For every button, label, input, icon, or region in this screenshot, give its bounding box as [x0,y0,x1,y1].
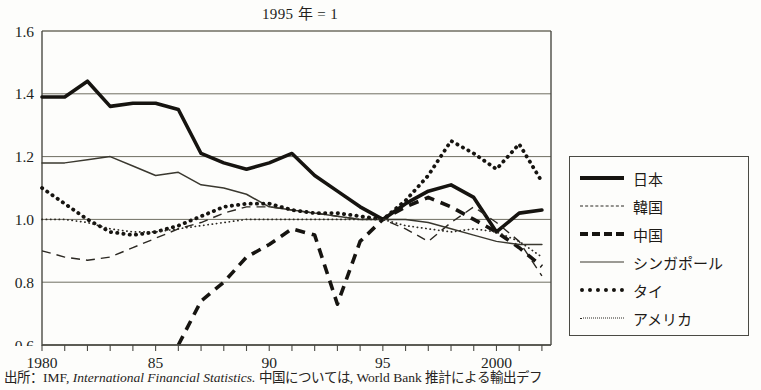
legend-swatch-korea-line-icon [580,199,624,213]
legend-swatch-thailand-line-icon [580,283,624,297]
legend-label-korea: 韓国 [633,196,663,217]
legend-label-singapore: シンガポール [633,252,723,273]
xtick-label: 2000 [481,354,512,371]
legend-item-china: 中国 [580,220,748,248]
ytick-label: 1.2 [15,148,34,165]
chart-legend: 日本 韓国 中国 シンガポール タイ アメリカ [569,156,749,336]
series-group [42,81,542,345]
chart-page: 1995 年 = 1 0.60.81.01.21.41.619808590952… [0,0,761,390]
legend-swatch-singapore-line-icon [580,255,624,269]
legend-item-japan: 日本 [580,164,748,192]
ytick-label: 1.0 [15,211,35,228]
legend-swatch-japan-line-icon [580,171,624,185]
legend-swatch-china-line-icon [580,227,624,241]
legend-label-china: 中国 [633,224,663,245]
legend-item-singapore: シンガポール [580,248,748,276]
ytick-label: 1.6 [15,23,35,40]
source-caption: 出所：IMF, International Financial Statisti… [4,370,761,386]
legend-swatch-usa-line-icon [580,311,624,325]
xtick-label: 95 [375,354,391,371]
legend-item-thailand: タイ [580,276,748,304]
legend-label-japan: 日本 [633,168,663,189]
ytick-label: 1.4 [15,85,35,102]
legend-label-thailand: タイ [633,280,663,301]
caption-italic-title: International Financial Statistics. [73,370,256,385]
caption-prefix: 出所：IMF, [4,370,73,385]
xtick-label: 1980 [27,354,58,371]
legend-item-korea: 韓国 [580,192,748,220]
legend-item-usa: アメリカ [580,304,748,332]
xtick-label: 90 [261,354,277,371]
series-line-韓国 [42,207,542,276]
caption-suffix: 中国については, World Bank 推計による輸出デフ [255,370,542,385]
legend-label-usa: アメリカ [633,308,692,329]
ytick-label: 0.8 [15,274,35,291]
xtick-label: 85 [148,354,164,371]
series-line-アメリカ [42,219,542,257]
